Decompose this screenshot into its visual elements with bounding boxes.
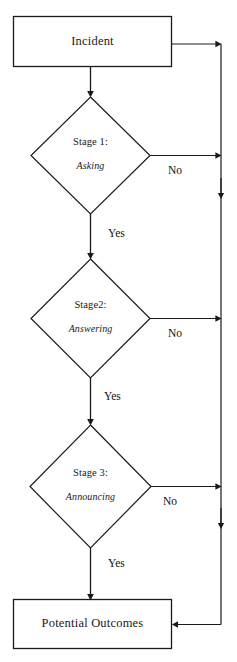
node-stage1-title: Stage 1: — [41, 136, 140, 148]
node-stage2-subtitle: Answering — [41, 323, 140, 334]
node-stage3-subtitle: Announcing — [41, 491, 140, 502]
edge-label-yes-stage2: Yes — [104, 390, 121, 402]
node-incident-label: Incident — [13, 35, 172, 49]
node-stage1-subtitle: Asking — [41, 160, 140, 171]
edge-label-yes-stage1: Yes — [108, 227, 125, 239]
node-stage3-title: Stage 3: — [41, 467, 140, 479]
node-stage2-title: Stage2: — [41, 299, 140, 311]
edge-label-yes-stage3: Yes — [108, 557, 125, 569]
edge-label-no-stage1: No — [168, 164, 182, 176]
edge-label-no-stage3: No — [163, 495, 177, 507]
node-stage2-shape — [31, 259, 150, 378]
node-stage3-shape — [30, 425, 151, 548]
node-stage1-shape — [31, 97, 150, 214]
edge-label-no-stage2: No — [168, 327, 182, 339]
flowchart-canvas: Incident Stage 1: Asking Stage2: Answeri… — [0, 0, 237, 662]
node-outcomes-label: Potential Outcomes — [13, 617, 172, 631]
